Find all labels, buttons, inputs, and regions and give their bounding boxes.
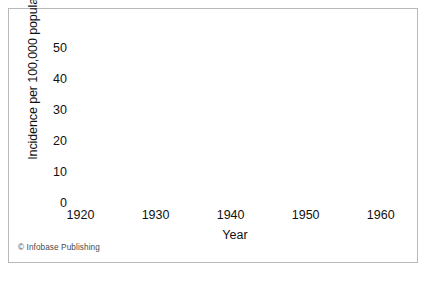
y-tick-label: 10	[39, 166, 67, 179]
credit-line: © Infobase Publishing	[18, 243, 100, 252]
x-tick-label: 1940	[209, 209, 253, 222]
x-tick-label: 1950	[284, 209, 328, 222]
y-tick-label: 30	[39, 104, 67, 117]
y-tick-label: 20	[39, 135, 67, 148]
x-axis-title: Year	[75, 228, 395, 242]
y-axis-title: Incidence per 100,000 population	[26, 0, 40, 164]
y-tick-label: 0	[39, 197, 67, 210]
y-tick-label: 40	[39, 73, 67, 86]
x-tick-label: 1960	[359, 209, 403, 222]
y-tick-label: 50	[39, 42, 67, 55]
x-tick-label: 1930	[134, 209, 178, 222]
x-tick-label: 1920	[59, 209, 103, 222]
figure-border	[8, 8, 418, 263]
chart-figure: Incidence per 100,000 population Year 01…	[0, 0, 433, 291]
